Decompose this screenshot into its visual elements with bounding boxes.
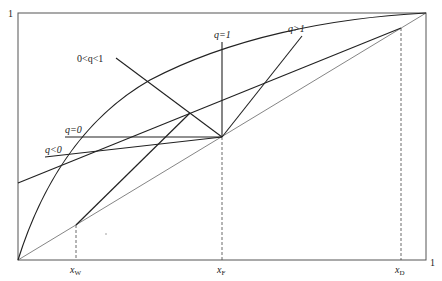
rectifying-operating-line (18, 28, 401, 183)
y-max-label: 1 (8, 8, 13, 19)
q-lt-0-label: q<0 (45, 144, 62, 155)
distillation-diagram: 1 1 xW xF xD q>1 q=1 0<q<1 q=0 q<0 (0, 0, 442, 281)
q-line-gt-1 (222, 36, 302, 137)
q-eq-0-label: q=0 (65, 124, 82, 135)
stripping-operating-line (76, 113, 190, 225)
q-gt-1-label: q>1 (288, 23, 305, 34)
xd-label: xD (394, 264, 405, 277)
q-between-0-1-label: 0<q<1 (77, 53, 103, 64)
q-eq-1-label: q=1 (214, 29, 231, 40)
xf-label: xF (216, 264, 225, 277)
q-line-between-0-1 (116, 58, 222, 137)
q-line-lt-0 (45, 137, 222, 157)
x-max-label: 1 (430, 257, 435, 268)
xw-label: xW (69, 264, 81, 277)
